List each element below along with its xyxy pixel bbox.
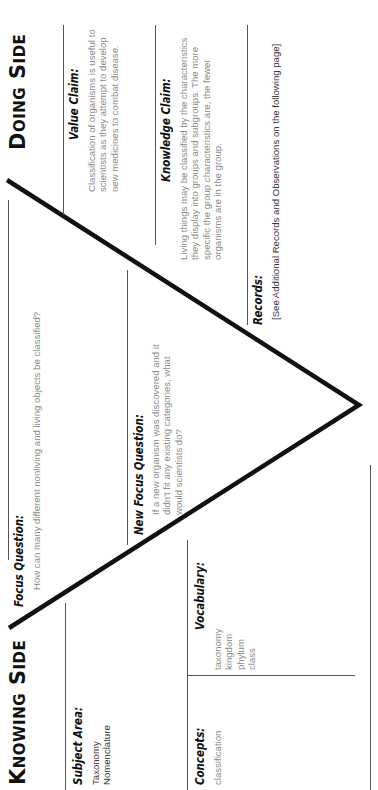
focus-question-label: Focus Question:: [11, 515, 26, 607]
vocabulary-item: kingdom: [223, 570, 234, 670]
concepts-list: classification: [212, 685, 223, 785]
value-claim-rule: [63, 25, 64, 215]
subject-area-label: Subject Area:: [70, 707, 85, 785]
value-claim-text: Classification of organisms is useful to…: [86, 22, 120, 192]
focus-question-text: How can many different nonliving and liv…: [31, 220, 42, 590]
subject-area-list: Taxonomy Nomenclature: [90, 665, 113, 785]
doing-side-title: Doing Side: [6, 34, 30, 150]
concepts-label: Concepts:: [192, 728, 207, 785]
concept-item: classification: [212, 685, 223, 785]
knowledge-claim-label: Knowledge Claim:: [158, 78, 173, 182]
knowing-side-title: Knowing Side: [6, 640, 30, 785]
value-claim-label: Value Claim:: [66, 68, 81, 140]
vocabulary-list: taxonomy kingdom phylum class: [212, 570, 258, 670]
knowledge-claim-text: Living things may be classified by the c…: [178, 20, 224, 260]
new-focus-question-text: If a new organism was discovered and it …: [150, 343, 184, 515]
concepts-divider: [187, 540, 188, 790]
records-text: [See Additional Records and Observations…: [270, 40, 281, 320]
subject-area-item: Nomenclature: [101, 665, 112, 785]
vocabulary-label: Vocabulary:: [192, 562, 207, 630]
concepts-vocabulary-divider: [187, 675, 355, 676]
records-label: Records:: [250, 275, 265, 325]
new-focus-question-rule: [127, 270, 128, 545]
vocabulary-item: class: [246, 570, 257, 670]
vee-diagram-page: Knowing Side Subject Area: Taxonomy Nome…: [0, 0, 378, 790]
records-rule: [247, 25, 248, 325]
vocabulary-item: taxonomy: [212, 570, 223, 670]
focus-question-rule: [8, 200, 9, 560]
bottom-rule: [370, 465, 371, 790]
new-focus-question-label: New Focus Question:: [131, 414, 146, 535]
subject-area-item: Taxonomy: [90, 665, 101, 785]
knowledge-claim-rule: [155, 25, 156, 245]
vocabulary-item: phylum: [235, 570, 246, 670]
subject-area-divider: [65, 603, 66, 790]
